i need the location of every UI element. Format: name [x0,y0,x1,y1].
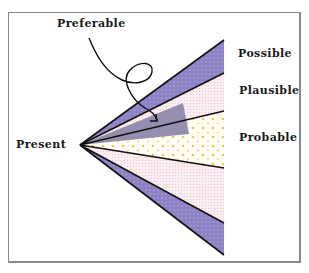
label-present: Present [16,138,66,151]
label-probable: Probable [239,131,297,144]
label-possible: Possible [238,47,292,60]
preferable-arrow-icon [89,38,157,121]
label-plausible: Plausible [239,84,299,97]
label-preferable: Preferable [57,17,126,30]
